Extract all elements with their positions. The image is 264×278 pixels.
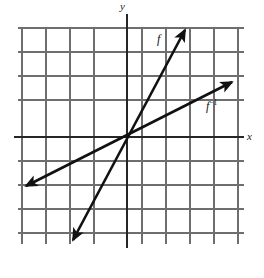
curve-label-f: f <box>157 33 160 45</box>
x-axis-label: x <box>247 131 252 142</box>
graph-figure: y x f f−1 <box>0 0 264 278</box>
curve-label-f-inverse: f−1 <box>206 99 217 112</box>
curve-label-f-inverse-exponent: −1 <box>209 98 217 107</box>
y-axis-label: y <box>120 1 125 12</box>
coordinate-graph-canvas <box>0 0 264 278</box>
function-line-f-inverse <box>26 82 232 186</box>
